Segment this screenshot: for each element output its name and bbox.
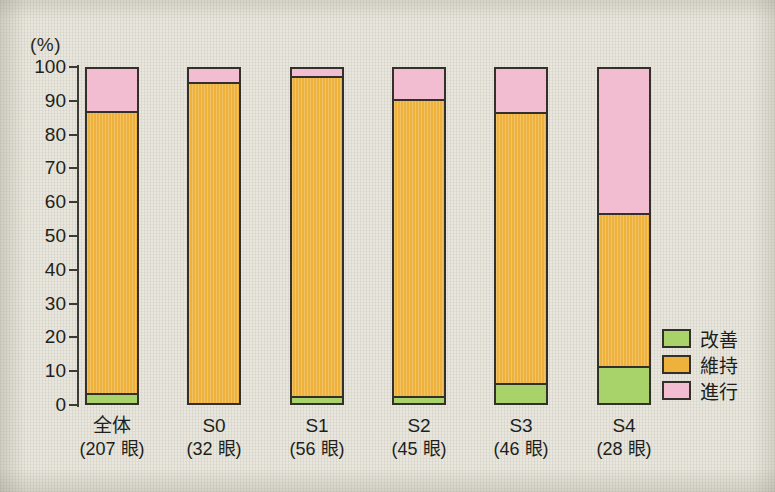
category-name: S3 — [509, 415, 532, 436]
bar-segment-maintain — [496, 112, 546, 383]
y-axis-tick — [69, 100, 78, 102]
category-count: (56 眼) — [262, 438, 372, 461]
bar-segment-progress — [87, 69, 137, 111]
legend-swatch-icon — [662, 329, 691, 348]
stacked-bar[interactable] — [85, 67, 139, 405]
bar-column — [597, 67, 651, 405]
x-axis-category-label: 全体(207 眼) — [57, 414, 167, 461]
legend-swatch-icon — [662, 381, 691, 400]
category-count: (207 眼) — [57, 438, 167, 461]
y-axis-tick — [69, 235, 78, 237]
category-count: (46 眼) — [466, 438, 576, 461]
bar-segment-improve — [496, 383, 546, 403]
y-axis-tick — [69, 66, 78, 68]
legend-label: 改善 — [700, 325, 738, 352]
category-name: S2 — [407, 415, 430, 436]
stacked-bar-chart: (%) 1009080706050403020100 全体(207 眼)S0(3… — [0, 0, 775, 492]
y-axis-tick-label: 70 — [20, 158, 66, 177]
category-name: S4 — [612, 415, 635, 436]
bar-segment-maintain — [87, 111, 137, 393]
bar-column — [494, 67, 548, 405]
stacked-bar[interactable] — [290, 67, 344, 405]
bar-group: S4(28 眼) — [597, 0, 651, 492]
bar-segment-improve — [292, 396, 342, 403]
y-axis-tick-label: 20 — [20, 327, 66, 346]
bar-segment-maintain — [599, 213, 649, 367]
chart-page: (%) 1009080706050403020100 全体(207 眼)S0(3… — [0, 0, 775, 492]
x-axis-category-label: S0(32 眼) — [159, 414, 269, 461]
bar-column — [392, 67, 446, 405]
bar-group: S3(46 眼) — [494, 0, 548, 492]
bar-column — [85, 67, 139, 405]
y-axis-tick-label: 0 — [20, 395, 66, 414]
y-axis-tick — [69, 269, 78, 271]
y-axis-tick-label: 90 — [20, 91, 66, 110]
bar-segment-maintain — [292, 76, 342, 397]
bar-segment-improve — [87, 393, 137, 403]
category-count: (45 眼) — [364, 438, 474, 461]
bar-segment-progress — [599, 69, 649, 213]
legend-item[interactable]: 維持 — [662, 354, 738, 375]
y-axis-tick-label: 60 — [20, 192, 66, 211]
chart-legend: 改善維持進行 — [662, 328, 738, 401]
category-count: (32 眼) — [159, 438, 269, 461]
legend-label: 進行 — [700, 377, 738, 404]
legend-label: 維持 — [700, 351, 738, 378]
y-axis-tick — [69, 201, 78, 203]
category-name: S0 — [202, 415, 225, 436]
category-name: S1 — [305, 415, 328, 436]
y-axis-tick — [69, 404, 78, 406]
bar-group: S1(56 眼) — [290, 0, 344, 492]
bar-segment-improve — [599, 366, 649, 403]
category-count: (28 眼) — [569, 438, 679, 461]
y-axis-tick — [69, 134, 78, 136]
y-axis-tick-label: 100 — [20, 57, 66, 76]
y-axis-tick-label: 30 — [20, 294, 66, 313]
bar-segment-progress — [496, 69, 546, 112]
y-axis-tick — [69, 303, 78, 305]
bar-group: S0(32 眼) — [187, 0, 241, 492]
bar-group: 全体(207 眼) — [85, 0, 139, 492]
x-axis-category-label: S4(28 眼) — [569, 414, 679, 461]
x-axis-category-label: S2(45 眼) — [364, 414, 474, 461]
x-axis-category-label: S3(46 眼) — [466, 414, 576, 461]
legend-item[interactable]: 改善 — [662, 328, 738, 349]
y-axis-tick-label: 80 — [20, 125, 66, 144]
stacked-bar[interactable] — [494, 67, 548, 405]
bar-segment-progress — [189, 69, 239, 82]
stacked-bar[interactable] — [597, 67, 651, 405]
bar-group: S2(45 眼) — [392, 0, 446, 492]
bar-segment-maintain — [394, 99, 444, 396]
y-axis-tick-label: 50 — [20, 226, 66, 245]
stacked-bar[interactable] — [392, 67, 446, 405]
legend-swatch-icon — [662, 355, 691, 374]
bar-column — [290, 67, 344, 405]
y-axis-tick-label: 10 — [20, 361, 66, 380]
bar-column — [187, 67, 241, 405]
x-axis-category-label: S1(56 眼) — [262, 414, 372, 461]
y-axis-tick-label: 40 — [20, 260, 66, 279]
bar-segment-progress — [292, 69, 342, 76]
category-name: 全体 — [93, 415, 131, 436]
bar-segment-improve — [394, 396, 444, 403]
bar-segment-progress — [394, 69, 444, 99]
bar-segment-maintain — [189, 82, 239, 403]
y-axis-tick — [69, 336, 78, 338]
legend-item[interactable]: 進行 — [662, 380, 738, 401]
stacked-bar[interactable] — [187, 67, 241, 405]
y-axis-tick — [69, 370, 78, 372]
y-axis-tick — [69, 167, 78, 169]
